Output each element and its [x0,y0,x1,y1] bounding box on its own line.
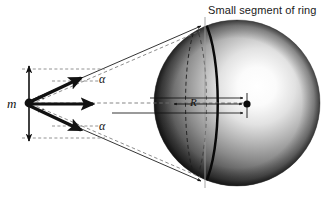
radius-label: R [190,97,197,108]
angle-label-lower: α [99,120,105,132]
ring-point-dot [243,100,250,107]
force-vectors-group [30,78,93,130]
mass-point-dot [25,99,34,108]
physics-diagram-figure: Small segment of ring m R α α [0,0,335,203]
mass-label: m [7,97,16,110]
angle-label-upper: α [99,73,105,85]
diagram-canvas [0,0,335,203]
ring-segment-title-label: Small segment of ring [208,5,316,16]
lower-force-vector [30,106,81,130]
upper-force-vector [30,78,81,102]
